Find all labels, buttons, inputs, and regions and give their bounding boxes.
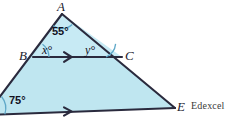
vertex-label-C: C: [125, 49, 134, 62]
angle-label-x: x°: [42, 44, 52, 56]
angle-label-75: 75°: [9, 95, 26, 106]
triangle-fill-lower: [0, 14, 175, 115]
vertex-label-E: E: [177, 100, 185, 113]
angle-label-55: 55°: [52, 26, 69, 37]
vertex-label-B: B: [19, 49, 27, 62]
attribution-text: Edexcel: [191, 101, 225, 111]
vertex-label-A: A: [57, 0, 65, 13]
angle-label-y: y°: [85, 44, 95, 56]
geometry-figure-container: A B C E 55° x° y° 75° Edexcel: [0, 0, 232, 123]
